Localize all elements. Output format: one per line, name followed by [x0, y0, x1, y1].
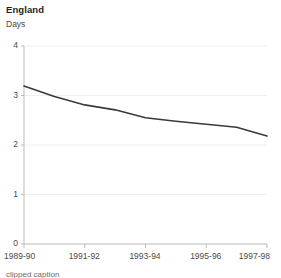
data-line [24, 86, 267, 136]
x-tick-label: 1997-98 [239, 252, 270, 261]
y-tick-label: 2 [4, 140, 18, 149]
chart-container: England Days 01234 1989-901991-921993-94… [0, 0, 281, 278]
x-tick-label: 1993-94 [129, 252, 160, 261]
y-tick-label: 3 [4, 91, 18, 100]
y-tick-label: 4 [4, 41, 18, 50]
x-tick-marks-group [24, 244, 267, 248]
clipped-caption-strip: clipped caption [0, 272, 281, 278]
data-series-group [24, 86, 267, 136]
plot-area: 01234 1989-901991-921993-941995-961997-9… [0, 0, 281, 278]
line-chart-svg [0, 0, 281, 278]
x-tick-label: 1995-96 [190, 252, 221, 261]
x-tick-label: 1991-92 [69, 252, 100, 261]
y-tick-label: 0 [4, 239, 18, 248]
x-tick-label: 1989-90 [4, 252, 35, 261]
gridlines-group [24, 46, 267, 195]
y-tick-label: 1 [4, 190, 18, 199]
caption-text: clipped caption [6, 272, 59, 278]
